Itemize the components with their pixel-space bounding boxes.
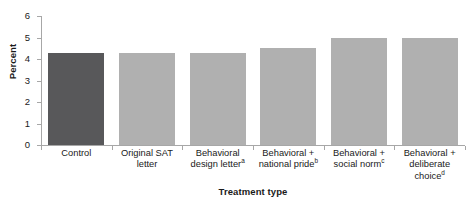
bar-slot	[182, 16, 253, 145]
bars-group	[41, 16, 465, 145]
bar-slot	[112, 16, 183, 145]
bar-control[interactable]	[48, 53, 104, 145]
category-label-5: Behavioral +deliberatechoiced	[394, 148, 465, 182]
category-label-line: social normc	[324, 159, 395, 170]
y-tick-label-2: 2	[25, 95, 30, 108]
category-label-line: Behavioral +	[394, 148, 465, 159]
category-label-line: design lettera	[182, 159, 253, 170]
y-tick-label-4: 4	[25, 52, 30, 65]
category-label-line: choiced	[394, 171, 465, 182]
category-label-2: Behavioraldesign lettera	[182, 148, 253, 171]
y-axis-title: Percent	[7, 27, 18, 97]
x-tick-6	[465, 146, 466, 150]
category-label-line: letter	[112, 159, 183, 170]
bar-original-sat-letter[interactable]	[119, 53, 175, 145]
category-label-3: Behavioral +national prideb	[253, 148, 324, 171]
footnote-marker: a	[241, 157, 245, 164]
footnote-marker: d	[441, 169, 445, 176]
bar-slot	[41, 16, 112, 145]
category-label-line: deliberate	[394, 159, 465, 170]
category-label-0: Control	[41, 148, 112, 159]
bar-behavioral-social-norm[interactable]	[331, 38, 387, 146]
bar-slot	[324, 16, 395, 145]
category-label-line: Original SAT	[112, 148, 183, 159]
category-labels: ControlOriginal SATletterBehavioraldesig…	[41, 148, 465, 190]
category-label-4: Behavioral +social normc	[324, 148, 395, 171]
footnote-marker: b	[314, 157, 318, 164]
footnote-marker: c	[381, 157, 384, 164]
category-label-1: Original SATletter	[112, 148, 183, 171]
plot-area: 0123456	[41, 16, 465, 145]
bar-behavioral-national-pride[interactable]	[260, 48, 316, 145]
y-tick-label-6: 6	[25, 9, 30, 22]
category-label-line: Control	[41, 148, 112, 159]
y-tick-label-1: 1	[25, 117, 30, 130]
bar-behavioral-design-letter[interactable]	[190, 53, 246, 145]
bar-chart: Percent 0123456 ControlOriginal SATlette…	[0, 0, 476, 203]
x-axis-title: Treatment type	[41, 186, 465, 197]
bar-behavioral-deliberate-choice[interactable]	[402, 38, 458, 146]
y-tick-label-0: 0	[25, 138, 30, 151]
bar-slot	[394, 16, 465, 145]
y-tick-label-5: 5	[25, 31, 30, 44]
bar-slot	[253, 16, 324, 145]
y-tick-label-3: 3	[25, 74, 30, 87]
category-label-line: national prideb	[253, 159, 324, 170]
